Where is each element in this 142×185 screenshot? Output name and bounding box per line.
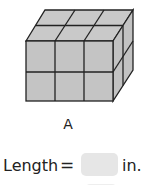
unit-label: in. <box>122 156 142 175</box>
next-answer-input[interactable] <box>86 184 116 185</box>
equals-sign: = <box>60 155 74 175</box>
cube-front-face <box>26 41 113 101</box>
length-label: Length <box>3 156 58 175</box>
length-equation: Length = in. <box>3 153 142 177</box>
cube-figure-a <box>0 0 142 110</box>
figure-label: A <box>62 116 74 132</box>
length-answer-input[interactable] <box>81 153 118 176</box>
